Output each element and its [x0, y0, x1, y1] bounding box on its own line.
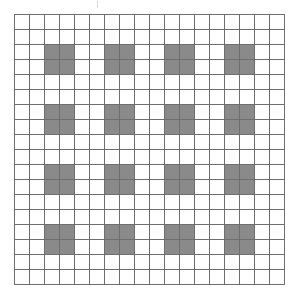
grid-cell-empty[interactable]: [90, 240, 105, 255]
grid-cell-empty[interactable]: [240, 75, 255, 90]
grid-cell-filled[interactable]: [180, 165, 195, 180]
grid-cell-empty[interactable]: [30, 30, 45, 45]
grid-cell-empty[interactable]: [195, 240, 210, 255]
grid-cell-empty[interactable]: [30, 270, 45, 285]
grid-cell-empty[interactable]: [270, 135, 285, 150]
grid-cell-empty[interactable]: [90, 90, 105, 105]
grid-cell-empty[interactable]: [210, 240, 225, 255]
grid-cell-empty[interactable]: [195, 195, 210, 210]
grid-cell-empty[interactable]: [270, 75, 285, 90]
grid-cell-empty[interactable]: [135, 90, 150, 105]
grid-cell-empty[interactable]: [135, 30, 150, 45]
grid-cell-filled[interactable]: [120, 180, 135, 195]
grid-cell-empty[interactable]: [135, 195, 150, 210]
grid-cell-empty[interactable]: [75, 195, 90, 210]
grid-cell-empty[interactable]: [195, 180, 210, 195]
grid-cell-empty[interactable]: [15, 75, 30, 90]
grid-cell-empty[interactable]: [210, 105, 225, 120]
grid-cell-empty[interactable]: [105, 255, 120, 270]
grid-cell-filled[interactable]: [60, 240, 75, 255]
grid-cell-empty[interactable]: [60, 150, 75, 165]
grid-cell-empty[interactable]: [270, 60, 285, 75]
grid-cell-empty[interactable]: [30, 240, 45, 255]
grid-cell-empty[interactable]: [90, 180, 105, 195]
grid-cell-empty[interactable]: [120, 75, 135, 90]
grid-cell-empty[interactable]: [135, 120, 150, 135]
grid-cell-empty[interactable]: [120, 255, 135, 270]
grid-cell-empty[interactable]: [15, 45, 30, 60]
grid-cell-filled[interactable]: [225, 105, 240, 120]
grid-cell-filled[interactable]: [180, 240, 195, 255]
grid-cell-empty[interactable]: [255, 255, 270, 270]
grid-cell-empty[interactable]: [165, 195, 180, 210]
grid-cell-empty[interactable]: [90, 15, 105, 30]
grid-cell-empty[interactable]: [15, 90, 30, 105]
grid-cell-empty[interactable]: [150, 240, 165, 255]
grid-cell-empty[interactable]: [165, 15, 180, 30]
grid-cell-empty[interactable]: [90, 120, 105, 135]
grid-cell-empty[interactable]: [210, 180, 225, 195]
grid-cell-empty[interactable]: [135, 150, 150, 165]
grid-cell-filled[interactable]: [120, 105, 135, 120]
grid-cell-empty[interactable]: [30, 180, 45, 195]
grid-cell-empty[interactable]: [240, 210, 255, 225]
grid-cell-filled[interactable]: [165, 60, 180, 75]
grid-cell-filled[interactable]: [225, 60, 240, 75]
grid-cell-empty[interactable]: [135, 105, 150, 120]
grid-cell-filled[interactable]: [225, 45, 240, 60]
grid-cell-filled[interactable]: [180, 45, 195, 60]
grid-cell-filled[interactable]: [45, 60, 60, 75]
grid-cell-empty[interactable]: [270, 270, 285, 285]
grid-cell-filled[interactable]: [225, 180, 240, 195]
grid-cell-empty[interactable]: [195, 135, 210, 150]
grid-cell-empty[interactable]: [195, 150, 210, 165]
grid-cell-empty[interactable]: [90, 60, 105, 75]
grid-cell-filled[interactable]: [60, 45, 75, 60]
grid-cell-empty[interactable]: [150, 30, 165, 45]
grid-cell-filled[interactable]: [120, 120, 135, 135]
grid-cell-filled[interactable]: [180, 120, 195, 135]
grid-cell-filled[interactable]: [240, 60, 255, 75]
grid-cell-empty[interactable]: [135, 165, 150, 180]
grid-cell-empty[interactable]: [150, 180, 165, 195]
grid-cell-empty[interactable]: [135, 180, 150, 195]
grid-cell-empty[interactable]: [120, 195, 135, 210]
grid-cell-empty[interactable]: [90, 105, 105, 120]
grid-cell-filled[interactable]: [105, 105, 120, 120]
grid-cell-empty[interactable]: [60, 135, 75, 150]
grid-cell-filled[interactable]: [180, 60, 195, 75]
grid-cell-empty[interactable]: [165, 75, 180, 90]
grid-cell-empty[interactable]: [255, 30, 270, 45]
grid-cell-empty[interactable]: [165, 135, 180, 150]
grid-cell-filled[interactable]: [105, 165, 120, 180]
grid-cell-filled[interactable]: [165, 225, 180, 240]
grid-cell-filled[interactable]: [45, 225, 60, 240]
grid-cell-empty[interactable]: [75, 255, 90, 270]
grid-cell-filled[interactable]: [165, 240, 180, 255]
grid-cell-filled[interactable]: [180, 180, 195, 195]
grid-cell-filled[interactable]: [60, 165, 75, 180]
grid-cell-empty[interactable]: [210, 225, 225, 240]
grid-cell-empty[interactable]: [60, 210, 75, 225]
grid-cell-empty[interactable]: [270, 120, 285, 135]
grid-cell-empty[interactable]: [210, 210, 225, 225]
grid-cell-empty[interactable]: [75, 150, 90, 165]
grid-cell-empty[interactable]: [180, 30, 195, 45]
grid-cell-empty[interactable]: [180, 15, 195, 30]
grid-cell-empty[interactable]: [30, 210, 45, 225]
grid-cell-empty[interactable]: [45, 90, 60, 105]
grid-cell-empty[interactable]: [225, 30, 240, 45]
grid-cell-filled[interactable]: [120, 165, 135, 180]
grid-cell-filled[interactable]: [45, 120, 60, 135]
grid-cell-filled[interactable]: [180, 105, 195, 120]
grid-cell-filled[interactable]: [225, 120, 240, 135]
grid-cell-empty[interactable]: [15, 135, 30, 150]
grid-cell-empty[interactable]: [150, 150, 165, 165]
grid-cell-empty[interactable]: [255, 270, 270, 285]
grid-cell-empty[interactable]: [210, 45, 225, 60]
grid-cell-empty[interactable]: [90, 210, 105, 225]
grid-cell-empty[interactable]: [105, 210, 120, 225]
grid-cell-filled[interactable]: [105, 120, 120, 135]
grid-cell-empty[interactable]: [225, 135, 240, 150]
grid-cell-filled[interactable]: [240, 225, 255, 240]
